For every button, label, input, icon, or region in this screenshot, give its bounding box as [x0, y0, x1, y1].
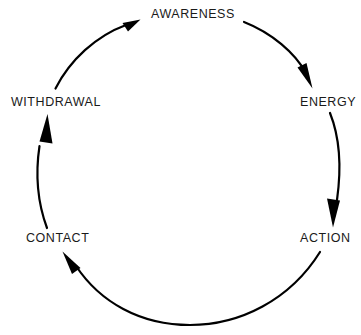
node-label-energy: ENERGY — [300, 96, 356, 109]
arrow-energy-to-action — [327, 113, 340, 228]
cycle-diagram: AWARENESS ENERGY ACTION CONTACT WITHDRAW… — [0, 0, 361, 335]
arrow-withdrawal-to-awareness — [56, 20, 141, 89]
node-label-withdrawal: WITHDRAWAL — [11, 96, 101, 109]
arrow-contact-to-withdrawal — [38, 114, 53, 228]
arrow-awareness-to-energy — [244, 22, 313, 89]
arrow-action-to-contact — [63, 252, 321, 326]
node-label-action: ACTION — [300, 232, 351, 245]
cycle-arcs-svg — [0, 0, 361, 335]
node-label-awareness: AWARENESS — [151, 8, 235, 21]
node-label-contact: CONTACT — [26, 232, 89, 245]
